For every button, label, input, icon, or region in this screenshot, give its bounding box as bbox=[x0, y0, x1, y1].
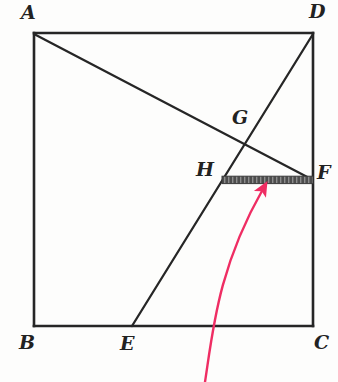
geometry-figure bbox=[0, 0, 338, 382]
vertex-label-b: B bbox=[19, 333, 35, 352]
vertex-label-d: D bbox=[309, 2, 325, 21]
diagram-canvas: A D B C E F G H bbox=[0, 0, 338, 382]
vertex-label-g: G bbox=[232, 108, 248, 127]
vertex-label-c: C bbox=[314, 333, 329, 352]
vertex-label-f: F bbox=[317, 163, 331, 182]
highlighted-segment-hf bbox=[222, 176, 313, 183]
vertex-label-a: A bbox=[21, 3, 36, 22]
vertex-label-h: H bbox=[196, 160, 214, 179]
cevian-af bbox=[34, 34, 313, 180]
vertex-label-e: E bbox=[120, 334, 134, 353]
pointer-arrow bbox=[205, 189, 263, 382]
